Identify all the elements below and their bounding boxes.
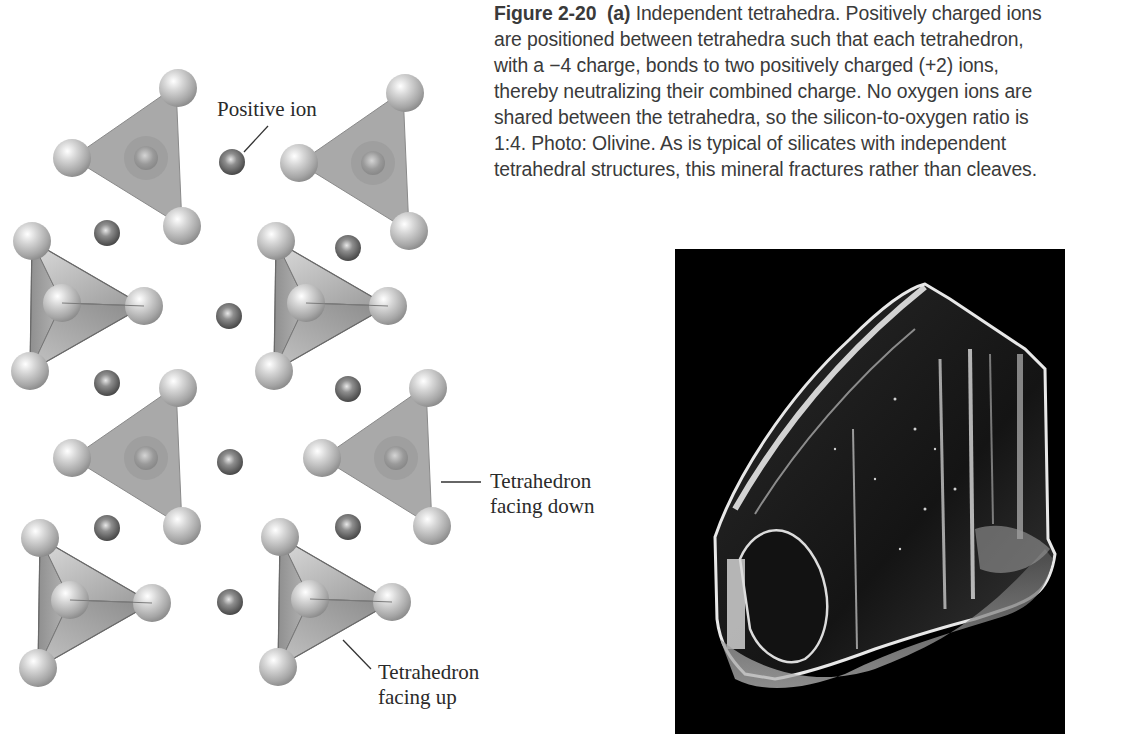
- positive-ion-leader: [244, 126, 268, 152]
- tetrahedron-facing-up: [255, 222, 407, 390]
- tetrahedron-facing-down-label: Tetrahedron facing down: [490, 469, 594, 519]
- tetrahedron-facing-up-label: Tetrahedron facing up: [378, 660, 479, 710]
- tetrahedron-facing-down: [53, 369, 201, 545]
- caption-line-1: Figure 2-20 (a) Independent tetrahedra. …: [494, 0, 1134, 26]
- caption-text: Independent tetrahedra. Positively charg…: [630, 2, 1041, 24]
- tetrahedron-facing-down: [303, 369, 451, 545]
- positive-ion-label: Positive ion: [217, 97, 317, 122]
- figure-number: Figure 2-20: [494, 2, 596, 24]
- facing-up-line1: Tetrahedron: [378, 660, 479, 685]
- figure-part-label: (a): [607, 2, 630, 24]
- olivine-crystal-illustration: [675, 249, 1065, 734]
- tetrahedron-facing-up: [19, 519, 171, 687]
- positive-ions: [94, 149, 361, 615]
- tetrahedron-facing-down: [53, 69, 201, 245]
- facing-up-leader: [343, 640, 371, 669]
- tetrahedron-facing-up: [11, 222, 163, 390]
- facing-down-line2: facing down: [490, 494, 594, 519]
- olivine-photo: [675, 249, 1065, 734]
- facing-down-line1: Tetrahedron: [490, 469, 594, 494]
- caption-line-6: 1:4. Photo: Olivine. As is typical of si…: [494, 130, 1134, 156]
- caption-line-4: thereby neutralizing their combined char…: [494, 78, 1134, 104]
- caption-line-7: tetrahedral structures, this mineral fra…: [494, 156, 1134, 182]
- caption-line-2: are positioned between tetrahedra such t…: [494, 26, 1134, 52]
- caption-line-3: with a −4 charge, bonds to two positivel…: [494, 52, 1134, 78]
- caption-line-5: shared between the tetrahedra, so the si…: [494, 104, 1134, 130]
- figure-caption: Figure 2-20 (a) Independent tetrahedra. …: [494, 0, 1134, 182]
- facing-up-line2: facing up: [378, 685, 479, 710]
